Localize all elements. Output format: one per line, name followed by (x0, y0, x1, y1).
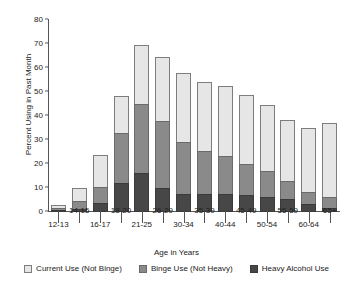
bar (155, 57, 170, 211)
bar-segment (218, 86, 233, 157)
bar (134, 45, 149, 211)
legend-label: Current Use (Not Binge) (36, 264, 122, 273)
bar-segment (197, 151, 212, 196)
bar-segment (176, 142, 191, 195)
bar-segment (134, 45, 149, 105)
bar-segment (260, 171, 275, 198)
x-tick-label: 40-44 (215, 220, 235, 229)
x-tick-label: 12-13 (48, 220, 68, 229)
bar-segment (114, 96, 129, 134)
bar (239, 95, 254, 211)
legend-swatch-icon (24, 265, 32, 273)
bar (93, 155, 108, 211)
bar-segment (260, 105, 275, 172)
legend-label: Heavy Alcohol Use (262, 264, 329, 273)
bar (322, 123, 337, 211)
x-tick-label: 16-17 (90, 220, 110, 229)
plot-area: 01020304050607080 (48, 19, 340, 211)
bar (301, 128, 316, 211)
x-axis-title: Age in Years (0, 248, 353, 257)
bar-segment (239, 164, 254, 196)
bar (114, 96, 129, 211)
bar-segment (93, 187, 108, 204)
x-tick-label: 50-54 (257, 220, 277, 229)
bar (280, 120, 295, 211)
legend-item: Heavy Alcohol Use (250, 264, 329, 273)
bar-segment (239, 95, 254, 165)
y-axis-title: Percent Using in Past Month (24, 25, 33, 185)
bar (176, 73, 191, 211)
legend-swatch-icon (139, 265, 147, 273)
bar-segment (197, 82, 212, 152)
x-tick-label: 60-64 (298, 220, 318, 229)
bar-segment (155, 57, 170, 122)
bar-segment (218, 156, 233, 196)
bar-segment (134, 104, 149, 174)
x-tick-label: 45-49 (236, 206, 256, 215)
bar (260, 105, 275, 211)
legend-swatch-icon (250, 265, 258, 273)
bar (197, 82, 212, 211)
x-tick-label: 18-20 (111, 206, 131, 215)
bar-segment (93, 155, 108, 189)
chart-legend: Current Use (Not Binge)Binge Use (Not He… (0, 264, 353, 273)
legend-item: Current Use (Not Binge) (24, 264, 122, 273)
x-tick-label: 26-29 (152, 206, 172, 215)
x-tick-label: 21-25 (132, 220, 152, 229)
bar-segment (155, 121, 170, 189)
bar-segment (280, 181, 295, 200)
bar-segment (134, 173, 149, 212)
alcohol-use-bar-chart: Percent Using in Past Month 010203040506… (0, 0, 353, 287)
x-tick-label: 35-39 (194, 206, 214, 215)
bar-segment (322, 123, 337, 199)
bar-segment (280, 120, 295, 181)
x-tick-label: 14-15 (69, 206, 89, 215)
bar-segment (218, 194, 233, 212)
legend-label: Binge Use (Not Heavy) (151, 264, 233, 273)
bar-segment (114, 133, 129, 184)
bar-segment (176, 73, 191, 143)
bar-segment (260, 197, 275, 212)
bar-group (48, 19, 340, 211)
x-tick-label: 55-59 (278, 206, 298, 215)
x-tick-label: 65+ (323, 206, 337, 215)
bar-segment (301, 128, 316, 194)
bar-segment (176, 194, 191, 212)
x-tick-label: 30-34 (173, 220, 193, 229)
legend-item: Binge Use (Not Heavy) (139, 264, 233, 273)
bar (218, 86, 233, 211)
